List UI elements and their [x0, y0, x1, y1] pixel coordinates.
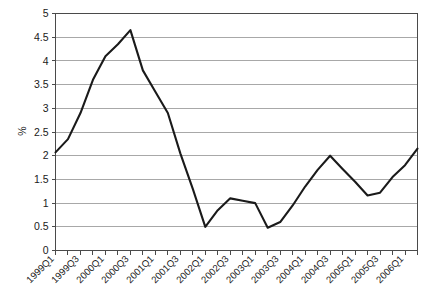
y-tick-label: 0.5 [34, 220, 49, 232]
y-tick-label: 1 [43, 197, 49, 209]
y-axis-tick-labels: 00.511.522.533.544.55 [34, 7, 49, 256]
line-chart: 00.511.522.533.544.55 1999Q11999Q32000Q1… [0, 0, 439, 302]
y-tick-label: 5 [43, 7, 49, 19]
data-series-line [56, 30, 418, 228]
gridlines [56, 14, 418, 227]
chart-canvas: 00.511.522.533.544.55 1999Q11999Q32000Q1… [0, 0, 439, 302]
x-axis-tick-labels: 1999Q11999Q32000Q12000Q32001Q12001Q32002… [24, 253, 405, 285]
y-tick-label: 1.5 [34, 173, 49, 185]
y-tick-label: 4.5 [34, 31, 49, 43]
x-tick-label: 2006Q1 [374, 253, 406, 285]
y-tick-label: 2 [43, 149, 49, 161]
y-tick-label: 4 [43, 55, 49, 67]
y-tick-label: 3 [43, 102, 49, 114]
y-tick-label: 3.5 [34, 78, 49, 90]
y-axis-title: % [16, 126, 28, 135]
y-tick-label: 2.5 [34, 126, 49, 138]
